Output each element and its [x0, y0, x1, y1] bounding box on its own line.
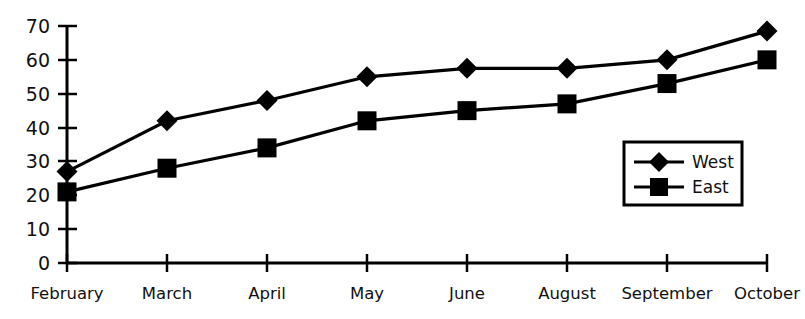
- data-point-diamond-icon: [357, 66, 378, 87]
- data-point-diamond-icon: [557, 58, 578, 79]
- data-point-square-icon: [258, 138, 277, 157]
- data-point-square-icon: [358, 111, 377, 130]
- y-tick-label: 60: [14, 51, 50, 70]
- data-point-square-icon: [658, 74, 677, 93]
- x-tick-label: October: [707, 285, 805, 302]
- data-point-diamond-icon: [257, 90, 278, 111]
- legend-label-west: West: [692, 154, 734, 171]
- data-point-diamond-icon: [757, 21, 778, 42]
- y-tick-label: 20: [14, 186, 50, 205]
- y-tick-label: 10: [14, 220, 50, 239]
- data-point-square-icon: [458, 101, 477, 120]
- data-point-diamond-icon: [157, 110, 178, 131]
- data-point-square-icon: [158, 159, 177, 178]
- data-point-square-icon: [58, 182, 77, 201]
- y-tick-label: 40: [14, 119, 50, 138]
- data-point-square-icon: [758, 50, 777, 69]
- y-tick-label: 30: [14, 152, 50, 171]
- data-point-square-icon: [558, 94, 577, 113]
- legend-label-east: East: [692, 179, 729, 196]
- y-tick-label: 70: [14, 17, 50, 36]
- y-tick-label: 0: [14, 254, 50, 273]
- legend-marker-square-icon: [650, 178, 668, 196]
- data-point-diamond-icon: [457, 58, 478, 79]
- data-point-diamond-icon: [57, 161, 78, 182]
- y-tick-label: 50: [14, 85, 50, 104]
- data-point-diamond-icon: [657, 49, 678, 70]
